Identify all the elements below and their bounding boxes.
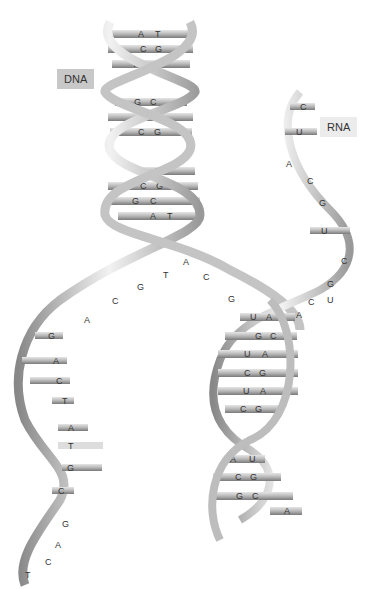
svg-text:U: U — [249, 454, 256, 464]
svg-text:T: T — [62, 396, 68, 406]
svg-text:U: U — [321, 226, 328, 236]
bp-left: A — [150, 211, 156, 221]
svg-text:C: C — [235, 472, 242, 482]
svg-text:C: C — [56, 376, 63, 386]
svg-text:A: A — [296, 310, 302, 320]
svg-text:C: C — [203, 272, 210, 282]
svg-text:U: U — [243, 386, 250, 396]
bp-left: C — [138, 127, 145, 137]
rna-label: RNA — [320, 117, 357, 137]
bp-right: G — [154, 127, 161, 137]
svg-text:C: C — [270, 331, 277, 341]
svg-text:A: A — [260, 386, 266, 396]
bp-right: T — [155, 29, 161, 39]
svg-text:A: A — [183, 257, 189, 267]
svg-text:C: C — [341, 256, 348, 266]
svg-text:C: C — [45, 557, 52, 567]
svg-text:A: A — [55, 540, 61, 550]
svg-text:G: G — [255, 404, 262, 414]
svg-text:A: A — [68, 423, 74, 433]
bp-right: C — [150, 196, 157, 206]
bp-left: C — [140, 44, 147, 54]
bp-right: C — [150, 97, 157, 107]
bp-right: G — [155, 44, 162, 54]
svg-text:G: G — [319, 198, 326, 208]
svg-text:G: G — [327, 279, 334, 289]
svg-text:G: G — [259, 368, 266, 378]
svg-text:G: G — [255, 331, 262, 341]
svg-text:G: G — [137, 282, 144, 292]
svg-text:G: G — [67, 463, 74, 473]
svg-text:C: C — [240, 404, 247, 414]
svg-text:U: U — [244, 349, 251, 359]
svg-text:A: A — [53, 356, 59, 366]
dna-unwound-right-strand: A C G A C — [183, 257, 315, 320]
svg-text:C: C — [244, 368, 251, 378]
svg-text:A: A — [84, 315, 90, 325]
svg-text:U: U — [327, 295, 334, 305]
dna-label: DNA — [57, 69, 94, 89]
bp-right: T — [167, 211, 173, 221]
svg-text:C: C — [300, 102, 307, 112]
svg-text:C: C — [307, 176, 314, 186]
svg-text:G: G — [62, 519, 69, 529]
svg-text:A: A — [266, 312, 272, 322]
svg-text:A: A — [262, 349, 268, 359]
svg-text:T: T — [25, 570, 31, 580]
svg-text:G: G — [236, 491, 243, 501]
svg-text:T: T — [68, 441, 74, 451]
svg-text:C: C — [112, 296, 119, 306]
svg-text:C: C — [58, 486, 65, 496]
dna-rna-illustration: A T C G T A G C A T C G A C G G C A T G … — [0, 0, 371, 589]
svg-text:U: U — [250, 312, 257, 322]
bp-left: G — [132, 196, 139, 206]
svg-text:A: A — [284, 506, 290, 516]
svg-text:A: A — [286, 159, 292, 169]
svg-text:T: T — [163, 270, 169, 280]
svg-text:U: U — [296, 127, 303, 137]
svg-text:C: C — [252, 491, 259, 501]
bp-left: A — [138, 29, 144, 39]
svg-text:G: G — [228, 294, 235, 304]
svg-text:G: G — [48, 331, 55, 341]
svg-text:G: G — [250, 472, 257, 482]
